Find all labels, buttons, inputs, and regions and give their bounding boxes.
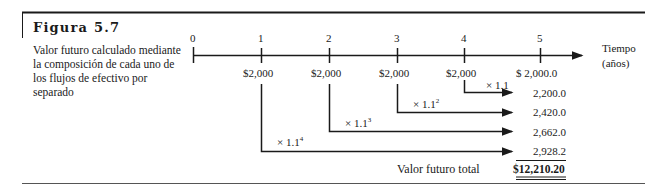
cash-flow-4: $2,000 [446, 67, 476, 80]
future-value-2: 2,662.0 [506, 126, 566, 139]
period-label-5: 5 [537, 32, 543, 45]
factor-4: × 1.14 [277, 136, 303, 149]
factor-2: × 1.12 [413, 98, 439, 111]
total-value: $12,210.20 [513, 163, 565, 176]
future-value-1: 2,928.2 [506, 145, 566, 158]
future-value-4: 2,200.0 [506, 87, 566, 100]
cash-flow-3: $2,000 [379, 67, 409, 80]
period-label-2: 2 [326, 32, 332, 45]
period-label-1: 1 [258, 32, 264, 45]
period-label-3: 3 [394, 32, 400, 45]
cash-flow-1: $2,000 [243, 67, 273, 80]
period-label-0: 0 [190, 32, 196, 45]
cash-flow-2: $2,000 [311, 67, 341, 80]
period-label-4: 4 [461, 32, 467, 45]
factor-3: × 1.13 [345, 117, 371, 130]
total-label: Valor futuro total [397, 163, 480, 176]
axis-label-years: (años) [602, 57, 630, 70]
future-value-3: 2,420.0 [506, 106, 566, 119]
figure-label: Figura 5.7 [33, 20, 120, 35]
cash-flow-5: $ 2,000.0 [516, 67, 557, 80]
figure-caption: Valor futuro calculado mediante la compo… [33, 43, 183, 99]
axis-label-time: Tiempo [602, 42, 636, 55]
